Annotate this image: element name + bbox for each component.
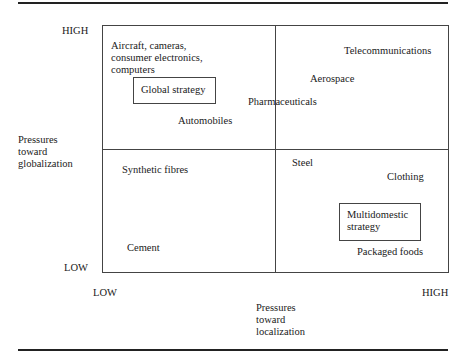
item-pharmaceuticals: Pharmaceuticals [248,96,317,108]
global-strategy-label: Global strategy [141,84,205,96]
x-axis-high-label: HIGH [422,287,448,299]
x-axis-low-label: LOW [93,287,117,299]
y-axis-title: Pressures toward globalization [18,134,73,170]
item-cement: Cement [127,242,160,254]
x-axis-title: Pressures toward localization [256,302,305,338]
item-packaged-foods: Packaged foods [357,246,423,258]
item-steel: Steel [292,157,313,169]
horizontal-divider [102,149,448,150]
item-telecommunications: Telecommunications [344,45,431,57]
top-rule [18,2,448,4]
y-axis-high-label: HIGH [62,25,88,37]
y-axis-low-label: LOW [64,262,88,274]
item-aerospace: Aerospace [310,73,354,85]
item-aircraft-cameras-electronics-computers: Aircraft, cameras, consumer electronics,… [111,40,203,76]
item-synthetic-fibres: Synthetic fibres [122,164,188,176]
item-clothing: Clothing [387,171,424,183]
bottom-rule [18,349,448,351]
item-automobiles: Automobiles [178,115,232,127]
multidomestic-strategy-label: Multidomestic strategy [347,209,408,233]
